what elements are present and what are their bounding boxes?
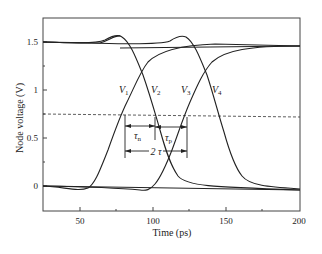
curve-v1: [43, 44, 300, 190]
label-tau-n: τn: [134, 130, 142, 143]
x-axis-ticks: [80, 207, 262, 211]
curve-v3: [43, 46, 300, 190]
y-tick-label: 1: [34, 85, 39, 95]
label-two-tau: 2 τ: [150, 146, 162, 157]
y-tick-label: 0.5: [27, 133, 39, 143]
label-v1: V1: [119, 84, 129, 97]
x-tick-label: 150: [219, 216, 233, 226]
curve-v4: [43, 36, 300, 189]
curve-v2: [43, 36, 300, 190]
label-v3: V3: [181, 84, 191, 97]
y-tick-label: 0: [34, 181, 39, 191]
x-axis-label: Time (ps): [153, 227, 192, 239]
y-tick-label: 1.5: [27, 37, 39, 47]
label-tau-p: τp: [165, 132, 173, 145]
y-axis-label: Node voltage (V): [14, 83, 26, 153]
x-tick-label: 200: [292, 216, 306, 226]
reference-line-half-vdd: [43, 114, 300, 117]
x-tick-label: 50: [76, 216, 86, 226]
label-v2: V2: [151, 84, 161, 97]
node-voltage-chart: 1.5 1 0.5 0 50 100 150 200 Time (ps) Nod…: [0, 0, 322, 254]
x-tick-label: 100: [146, 216, 160, 226]
